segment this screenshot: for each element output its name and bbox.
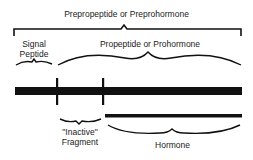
inactive-fragment-label-line1: "Inactive" (55, 127, 105, 137)
hormone-brace (108, 125, 240, 133)
signal-peptide-label-line1: Signal (12, 39, 56, 49)
preprohormone-label: Prepropeptide or Preprohormone (0, 9, 253, 19)
diagram-graphics (0, 0, 253, 160)
inactive-fragment-brace (60, 119, 101, 124)
diagram: Prepropeptide or Preprohormone Signal Pe… (0, 0, 253, 160)
signal-peptide-label-line2: Peptide (12, 49, 56, 59)
hormone-bar (105, 114, 242, 118)
preprohormone-bar (15, 87, 242, 95)
prohormone-brace (58, 52, 241, 65)
cleavage-mark-2 (102, 78, 104, 105)
prohormone-label: Propeptide or Prohormone (60, 39, 240, 49)
inactive-fragment-label-line2: Fragment (55, 137, 105, 147)
hormone-label: Hormone (130, 140, 215, 150)
cleavage-mark-1 (56, 78, 58, 105)
signal-peptide-brace (16, 59, 52, 65)
preprohormone-bracket (14, 25, 241, 36)
